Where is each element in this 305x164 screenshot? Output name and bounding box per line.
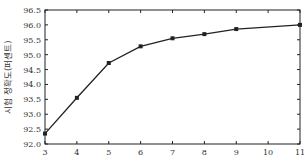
- data-point-marker: [107, 61, 111, 65]
- y-tick-label: 93.5: [23, 95, 41, 104]
- y-tick-label: 96.5: [23, 6, 41, 15]
- y-tick-label: 92.5: [23, 125, 41, 134]
- y-tick-label: 94.0: [23, 80, 41, 89]
- x-tick-label: 4: [74, 148, 79, 157]
- data-point-marker: [202, 32, 206, 36]
- x-tick-label: 10: [263, 148, 273, 157]
- x-tick-label: 3: [42, 148, 47, 157]
- plot-frame: [45, 10, 300, 144]
- y-axis-title: 시험 정확도(퍼센트): [3, 40, 13, 113]
- x-tick-label: 8: [202, 148, 207, 157]
- y-tick-label: 93.0: [23, 110, 41, 119]
- data-point-marker: [234, 27, 238, 31]
- line-chart: 92.092.593.093.594.094.595.095.596.096.5…: [0, 0, 305, 164]
- data-point-marker: [75, 96, 79, 100]
- data-point-marker: [43, 132, 47, 136]
- y-tick-label: 94.5: [23, 66, 41, 75]
- x-tick-label: 11: [295, 148, 305, 157]
- data-point-marker: [298, 23, 302, 27]
- x-axis-ticks: 34567891011: [42, 10, 305, 157]
- y-tick-label: 95.0: [23, 51, 41, 60]
- x-tick-label: 9: [234, 148, 239, 157]
- data-point-marker: [139, 44, 143, 48]
- data-series: [43, 23, 302, 136]
- x-tick-label: 7: [170, 148, 175, 157]
- data-point-marker: [171, 36, 175, 40]
- y-tick-label: 95.5: [23, 36, 41, 45]
- series-line: [45, 25, 300, 134]
- y-tick-label: 92.0: [23, 140, 41, 149]
- x-tick-label: 5: [106, 148, 111, 157]
- y-tick-label: 96.0: [23, 21, 41, 30]
- x-tick-label: 6: [138, 148, 143, 157]
